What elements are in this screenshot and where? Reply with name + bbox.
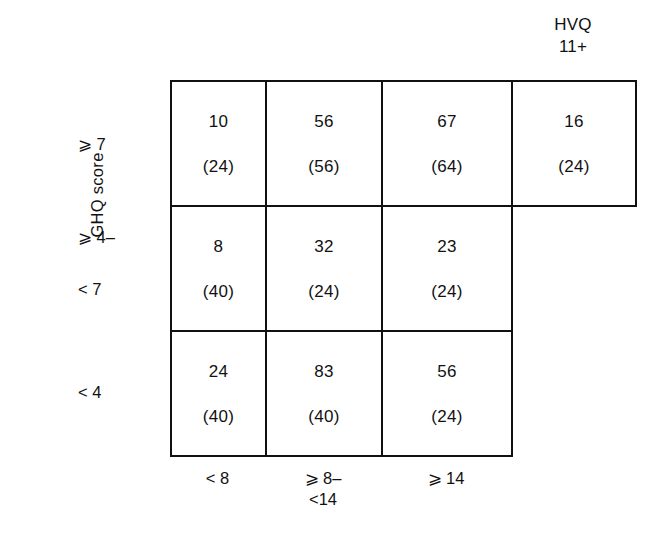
cell-count: 83	[314, 363, 334, 380]
hvq-column-header-line1: HVQ	[511, 14, 635, 36]
cell-percent: (64)	[431, 158, 462, 175]
cell-percent: (40)	[308, 408, 339, 425]
cell-r1-c1: 32 (24)	[265, 205, 383, 332]
cell-percent: (24)	[431, 283, 462, 300]
row-label-line2: < 7	[78, 276, 160, 302]
cell-count: 16	[564, 113, 584, 130]
cell-count: 24	[209, 363, 229, 380]
cell-percent: (24)	[203, 158, 234, 175]
cell-percent: (24)	[431, 408, 462, 425]
cell-r2-c2: 56 (24)	[381, 330, 513, 457]
column-label-line2: <14	[265, 489, 381, 510]
column-label-hvq-lt-8: < 8	[170, 468, 265, 489]
row-label-ghq-ge-7: ⩾ 7	[78, 131, 160, 157]
hvq-column-header: HVQ 11+	[511, 14, 635, 58]
cell-count: 56	[437, 363, 457, 380]
cell-count: 10	[209, 113, 229, 130]
cell-r0-c3-hvq: 16 (24)	[511, 80, 637, 207]
column-label-line1: < 8	[170, 468, 265, 489]
cell-percent: (56)	[308, 158, 339, 175]
cell-count: 67	[437, 113, 457, 130]
hvq-column-header-line2: 11+	[511, 36, 635, 58]
row-label-line1: ⩾ 4–	[78, 224, 160, 250]
cell-r0-c1: 56 (56)	[265, 80, 383, 207]
cell-count: 8	[214, 238, 224, 255]
column-label-hvq-ge-14: ⩾ 14	[381, 468, 511, 489]
cell-r2-c1: 83 (40)	[265, 330, 383, 457]
row-label-ghq-4-to-7: ⩾ 4– < 7	[78, 224, 160, 302]
cell-r0-c2: 67 (64)	[381, 80, 513, 207]
cell-percent: (24)	[308, 283, 339, 300]
cell-r1-c0: 8 (40)	[170, 205, 267, 332]
cell-r1-c2: 23 (24)	[381, 205, 513, 332]
column-label-line1: ⩾ 14	[381, 468, 511, 489]
cell-count: 56	[314, 113, 334, 130]
cell-r2-c0: 24 (40)	[170, 330, 267, 457]
cell-percent: (24)	[558, 158, 589, 175]
column-label-line1: ⩾ 8–	[265, 468, 381, 489]
row-label-ghq-lt-4: < 4	[78, 379, 160, 405]
row-label-line1: < 4	[78, 379, 160, 405]
column-label-hvq-8-to-14: ⩾ 8– <14	[265, 468, 381, 510]
row-label-line1: ⩾ 7	[78, 131, 160, 157]
cell-percent: (40)	[203, 408, 234, 425]
cell-r0-c0: 10 (24)	[170, 80, 267, 207]
contingency-grid-figure: HVQ 11+ GHQ score ⩾ 7 ⩾ 4– < 7 < 4 10 (2…	[0, 0, 671, 551]
cell-count: 32	[314, 238, 334, 255]
cell-count: 23	[437, 238, 457, 255]
cell-percent: (40)	[203, 283, 234, 300]
